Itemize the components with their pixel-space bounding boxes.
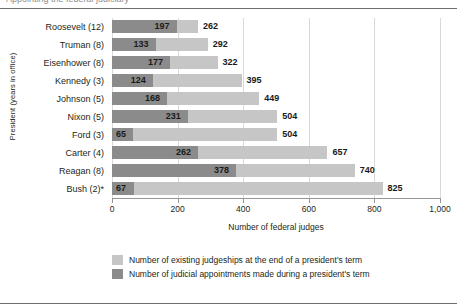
bar-row: 262657 — [112, 144, 440, 162]
bar-row: 231504 — [112, 108, 440, 126]
category-label: Carter (4) — [16, 144, 108, 162]
category-label: Ford (3) — [16, 126, 108, 144]
category-label: Kennedy (3) — [16, 72, 108, 90]
legend-swatch — [112, 269, 123, 279]
x-axis-line — [112, 198, 440, 199]
x-tick-600 — [309, 198, 310, 203]
cropped-title-remnant: Appointing the federal judiciary — [0, 0, 457, 7]
bar-value-appointments: 231 — [166, 110, 181, 123]
category-label: Bush (2)* — [16, 180, 108, 198]
bar-value-appointments: 378 — [214, 164, 229, 177]
legend-swatch — [112, 255, 123, 265]
x-tick-label-0: 0 — [92, 204, 132, 214]
legend-judicial-appointments: Number of judicial appointments made dur… — [112, 267, 452, 281]
bar-value-appointments: 197 — [155, 20, 170, 33]
bar-row: 124395 — [112, 72, 440, 90]
x-tick-label-800: 800 — [354, 204, 394, 214]
x-tick-label-600: 600 — [289, 204, 329, 214]
category-label-column: Roosevelt (12)Truman (8)Eisenhower (8)Ke… — [16, 18, 108, 198]
category-label: Reagan (8) — [16, 162, 108, 180]
bar-row: 133292 — [112, 36, 440, 54]
x-axis-title: Number of federal judges — [112, 222, 440, 232]
gridline-1000 — [440, 18, 441, 198]
category-label: Roosevelt (12) — [16, 18, 108, 36]
bar-value-appointments: 168 — [145, 92, 160, 105]
bar-value-existing: 740 — [360, 164, 375, 177]
bar-value-existing: 657 — [332, 146, 347, 159]
x-tick-800 — [374, 198, 375, 203]
bar-chart: President (years in office) Roosevelt (1… — [0, 12, 457, 252]
bar-existing-judgeships — [112, 128, 277, 141]
bar-value-appointments: 133 — [134, 38, 149, 51]
bar-row: 177322 — [112, 54, 440, 72]
bar-value-existing: 262 — [203, 20, 218, 33]
legend-label: Number of existing judgeships at the end… — [129, 255, 362, 265]
bar-value-appointments: 67 — [116, 182, 126, 195]
category-label: Truman (8) — [16, 36, 108, 54]
category-label: Johnson (5) — [16, 90, 108, 108]
x-tick-label-1000: 1,000 — [420, 204, 457, 214]
bar-existing-judgeships — [112, 182, 383, 195]
x-tick-400 — [243, 198, 244, 203]
bar-value-existing: 322 — [223, 56, 238, 69]
x-tick-200 — [178, 198, 179, 203]
category-label: Nixon (5) — [16, 108, 108, 126]
bar-value-existing: 395 — [247, 74, 262, 87]
bottom-divider-rule — [0, 303, 457, 304]
bar-row: 65504 — [112, 126, 440, 144]
bar-value-appointments: 177 — [148, 56, 163, 69]
bar-value-existing: 504 — [282, 110, 297, 123]
x-tick-0 — [112, 198, 113, 203]
bar-value-appointments: 262 — [176, 146, 191, 159]
bar-value-existing: 292 — [213, 38, 228, 51]
category-label: Eisenhower (8) — [16, 54, 108, 72]
legend-label: Number of judicial appointments made dur… — [129, 269, 370, 279]
bar-row: 378740 — [112, 162, 440, 180]
top-divider-rule — [0, 8, 457, 9]
x-tick-label-200: 200 — [158, 204, 198, 214]
bar-value-appointments: 124 — [131, 74, 146, 87]
bar-row: 197262 — [112, 18, 440, 36]
bar-value-existing: 504 — [282, 128, 297, 141]
x-tick-1000 — [440, 198, 441, 203]
plot-area: 1972621332921773221243951684492315046550… — [112, 18, 440, 198]
x-tick-label-400: 400 — [223, 204, 263, 214]
bar-value-existing: 449 — [264, 92, 279, 105]
legend-existing-judgeships: Number of existing judgeships at the end… — [112, 253, 452, 267]
bar-value-existing: 825 — [388, 182, 403, 195]
chart-legend: Number of existing judgeships at the end… — [112, 253, 452, 281]
bar-value-appointments: 65 — [116, 128, 126, 141]
bar-row: 168449 — [112, 90, 440, 108]
bar-row: 67825 — [112, 180, 440, 198]
